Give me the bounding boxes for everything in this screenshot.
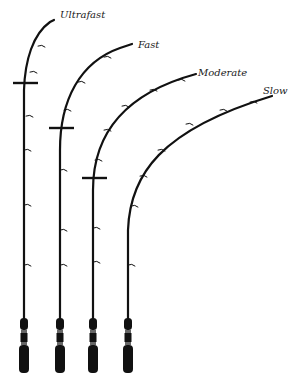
reel-seat bbox=[125, 333, 132, 342]
rear-grip bbox=[19, 345, 29, 373]
reel-seat bbox=[21, 333, 28, 342]
rod-guide-icon bbox=[26, 115, 33, 117]
rear-grip bbox=[55, 345, 65, 373]
rod-blank bbox=[24, 20, 54, 318]
rod-guide-icon bbox=[30, 71, 37, 73]
rods-illustration: UltrafastFastModerateSlow bbox=[0, 0, 293, 380]
fore-grip bbox=[20, 318, 28, 330]
rod-handle bbox=[123, 318, 133, 373]
rod-guide-icon bbox=[38, 45, 45, 47]
rod-blank bbox=[60, 44, 132, 318]
reel-seat-ring bbox=[57, 330, 63, 333]
rod-fast: Fast bbox=[49, 39, 160, 373]
rod-guide-icon bbox=[104, 56, 111, 58]
rod-label-slow: Slow bbox=[263, 85, 288, 96]
reel-seat-ring bbox=[90, 342, 96, 345]
reel-seat bbox=[57, 333, 64, 342]
rod-action-diagram: UltrafastFastModerateSlow Ultrafast Fast… bbox=[0, 0, 293, 380]
rod-label-moderate: Moderate bbox=[197, 67, 247, 78]
rod-guide-icon bbox=[78, 81, 85, 83]
rod-blank bbox=[128, 96, 272, 318]
rod-label-fast: Fast bbox=[137, 39, 160, 50]
reel-seat-ring bbox=[21, 330, 27, 333]
rod-label-ultrafast: Ultrafast bbox=[60, 9, 106, 20]
rod-guide-icon bbox=[220, 109, 227, 111]
rod-guide-icon bbox=[186, 123, 193, 125]
rod-slow: Slow bbox=[123, 85, 288, 373]
fore-grip bbox=[124, 318, 132, 330]
fore-grip bbox=[56, 318, 64, 330]
reel-seat-ring bbox=[21, 342, 27, 345]
reel-seat-ring bbox=[125, 330, 131, 333]
rod-handle bbox=[55, 318, 65, 373]
rod-handle bbox=[88, 318, 98, 373]
reel-seat-ring bbox=[125, 342, 131, 345]
reel-seat-ring bbox=[57, 342, 63, 345]
rod-blank bbox=[93, 74, 196, 318]
rod-guide-icon bbox=[122, 105, 129, 107]
reel-seat bbox=[90, 333, 97, 342]
rear-grip bbox=[88, 345, 98, 373]
fore-grip bbox=[89, 318, 97, 330]
rod-handle bbox=[19, 318, 29, 373]
rear-grip bbox=[123, 345, 133, 373]
reel-seat-ring bbox=[90, 330, 96, 333]
